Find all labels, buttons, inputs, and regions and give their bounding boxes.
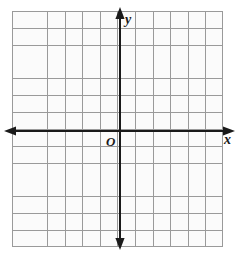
x-axis-label: x bbox=[224, 133, 231, 147]
axes-layer bbox=[0, 0, 239, 254]
coordinate-plane-figure: y x O bbox=[0, 0, 239, 254]
x-axis-left-arrowhead bbox=[4, 126, 16, 135]
y-axis-up-arrowhead bbox=[115, 7, 124, 19]
origin-label: O bbox=[106, 135, 115, 148]
y-axis-down-arrowhead bbox=[115, 238, 124, 250]
y-axis-label: y bbox=[125, 13, 131, 27]
